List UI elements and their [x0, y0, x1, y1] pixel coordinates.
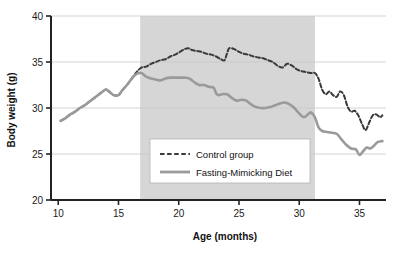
chart-figure: 2025303540 101520253035 Body weight (g) …	[0, 0, 400, 259]
x-tick-label-35: 35	[354, 208, 366, 219]
y-tick-label-20: 20	[32, 195, 44, 206]
x-tick-label-25: 25	[233, 208, 245, 219]
y-tick-label-35: 35	[32, 57, 44, 68]
x-tick-label-30: 30	[294, 208, 306, 219]
x-tick-label-20: 20	[173, 208, 185, 219]
x-tick-label-10: 10	[53, 208, 65, 219]
x-axis-title: Age (months)	[193, 231, 257, 242]
y-axis-title: Body weight (g)	[6, 73, 17, 148]
x-tick-label-15: 15	[113, 208, 125, 219]
legend-label-control: Control group	[196, 149, 254, 160]
y-tick-label-25: 25	[32, 149, 44, 160]
y-tick-label-40: 40	[32, 11, 44, 22]
body-weight-line-chart: 2025303540 101520253035 Body weight (g) …	[0, 0, 400, 259]
chart-legend: Control groupFasting-Mimicking Diet	[150, 139, 310, 183]
y-tick-label-30: 30	[32, 103, 44, 114]
legend-label-fmd: Fasting-Mimicking Diet	[196, 167, 292, 178]
